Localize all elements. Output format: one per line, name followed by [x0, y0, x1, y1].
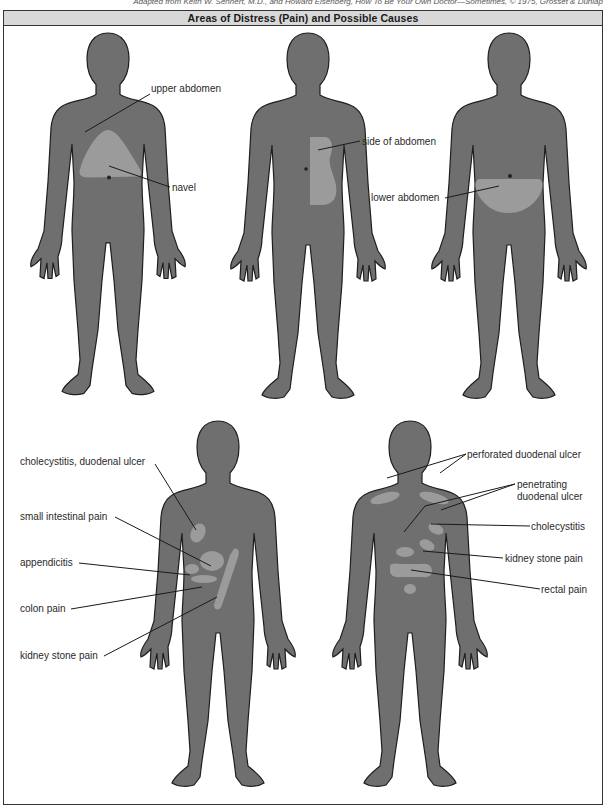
navel-marker [304, 167, 308, 171]
pain-area-small-intestine [200, 551, 224, 571]
label-side-of-abdomen: side of abdomen [362, 136, 436, 147]
pain-area-colon [191, 575, 217, 583]
pain-area-appendix [185, 564, 199, 574]
label-cholecystitis-duodenal-ulcer: cholecystitis, duodenal ulcer [20, 456, 146, 467]
navel-marker [508, 174, 512, 178]
label-perforated-duodenal-ulcer: perforated duodenal ulcer [467, 449, 582, 460]
label-penetrating: penetrating [517, 479, 567, 490]
body-silhouette [333, 421, 487, 786]
label-kidney-stone-pain-front: kidney stone pain [20, 650, 98, 661]
figure-front-detailed [141, 421, 295, 786]
body-silhouette [231, 33, 385, 398]
label-small-intestinal-pain: small intestinal pain [20, 511, 107, 522]
body-silhouette [432, 33, 586, 398]
label-cholecystitis-back: cholecystitis [531, 521, 585, 532]
label-appendicitis: appendicitis [20, 557, 73, 568]
navel-marker [107, 176, 111, 180]
label-kidney-stone-pain-back: kidney stone pain [505, 553, 583, 564]
pain-area-penetrating-left [396, 547, 414, 557]
label-navel: navel [172, 182, 196, 193]
label-upper-abdomen: upper abdomen [151, 83, 221, 94]
pain-area-rectal [404, 584, 416, 594]
diagram-canvas: upper abdomen navel side of abdomen lowe… [0, 0, 605, 809]
leader-line [440, 454, 466, 473]
figure-front-lower-abdomen [432, 33, 586, 398]
figure-front-side-abdomen [231, 33, 385, 398]
label-duodenal-ulcer: duodenal ulcer [517, 491, 583, 502]
label-colon-pain: colon pain [20, 603, 66, 614]
label-lower-abdomen: lower abdomen [371, 192, 439, 203]
figure-back-detailed [333, 421, 487, 786]
label-rectal-pain: rectal pain [541, 584, 587, 595]
